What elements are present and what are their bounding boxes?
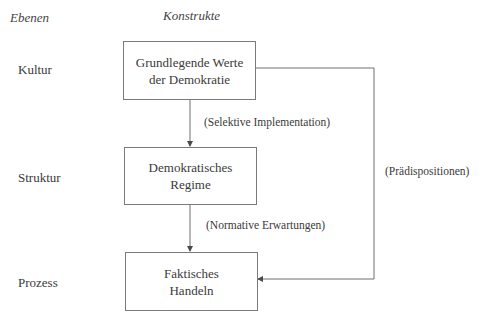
box-grundlegende-werte: Grundlegende Werte der Demokratie <box>123 41 256 100</box>
box-faktisches-handeln-line2: Handeln <box>164 282 219 299</box>
label-normative-erwartungen: (Normative Erwartungen) <box>206 219 325 231</box>
label-selective-implementation: (Selektive Implementation) <box>204 116 330 128</box>
box-grundlegende-werte-line1: Grundlegende Werte <box>136 54 243 71</box>
box-demokratisches-regime-line1: Demokratisches <box>149 159 233 176</box>
box-grundlegende-werte-line2: der Demokratie <box>136 71 243 88</box>
box-faktisches-handeln: Faktisches Handeln <box>125 252 258 311</box>
box-demokratisches-regime: Demokratisches Regime <box>124 147 257 205</box>
arrow-praedispositionen <box>255 68 374 279</box>
box-faktisches-handeln-line1: Faktisches <box>164 265 219 282</box>
box-demokratisches-regime-line2: Regime <box>149 176 233 193</box>
label-praedispositionen: (Prädispositionen) <box>385 165 469 177</box>
